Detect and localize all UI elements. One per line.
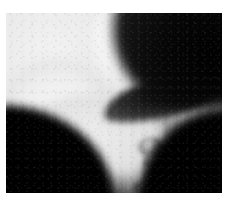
ultrasound-image <box>6 13 222 193</box>
page-canvas <box>0 0 231 212</box>
region-bottom-strip <box>6 171 222 193</box>
